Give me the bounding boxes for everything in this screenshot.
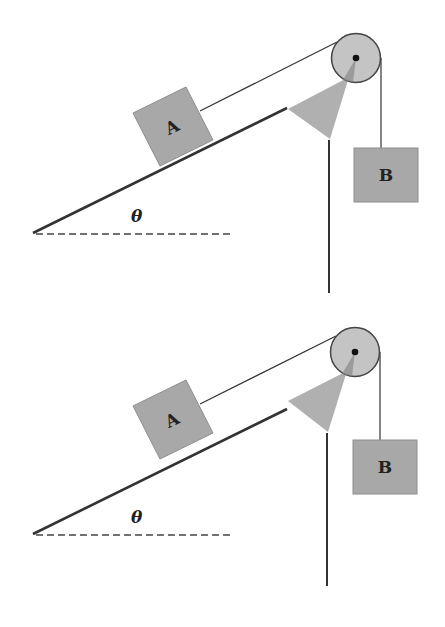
pulley-support-bracket	[288, 77, 349, 139]
pulley-axle	[353, 55, 360, 62]
block-a: A	[133, 87, 213, 166]
lower-diagram: θ A B	[33, 328, 417, 587]
pulley-axle	[352, 349, 359, 356]
pulley-incline-figure: θ A B θ A	[0, 0, 445, 627]
block-b-label: B	[379, 165, 393, 185]
block-b: B	[354, 148, 418, 202]
angle-label: θ	[131, 507, 143, 527]
upper-diagram: θ A B	[33, 34, 418, 294]
angle-label: θ	[131, 206, 143, 226]
block-b: B	[353, 440, 417, 494]
pulley-support-bracket	[288, 371, 347, 432]
block-b-label: B	[378, 457, 392, 477]
block-a: A	[133, 380, 213, 459]
